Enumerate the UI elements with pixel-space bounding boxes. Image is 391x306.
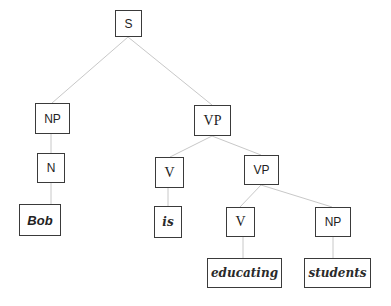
edge-vp-vp — [212, 136, 261, 155]
node-n: N — [37, 153, 65, 183]
edge-vp2-np2 — [261, 185, 332, 207]
edge-vp2-v2 — [240, 185, 261, 207]
leaf-bob: Bob — [19, 204, 61, 236]
node-vp: VP — [194, 105, 231, 136]
leaf-students: students — [304, 258, 371, 288]
edge-vp-v — [170, 136, 212, 157]
edge-s-vp — [128, 37, 212, 105]
node-v-2: V — [226, 207, 255, 237]
syntax-tree-diagram: S NP VP N V VP Bob is V NP educating stu… — [0, 0, 391, 306]
node-vp-2: VP — [244, 155, 279, 185]
node-s: S — [115, 10, 142, 37]
leaf-is: is — [154, 206, 182, 238]
edge-s-np — [52, 37, 128, 103]
leaf-educating: educating — [207, 258, 282, 288]
node-np: NP — [35, 103, 70, 134]
node-np-2: NP — [315, 207, 351, 237]
node-v: V — [155, 157, 184, 188]
